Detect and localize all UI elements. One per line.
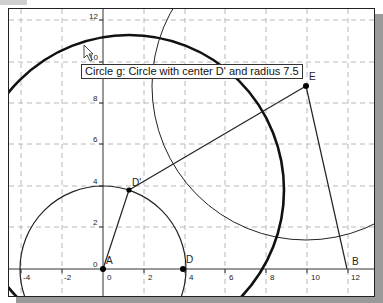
x-tick-label: 2 [148, 273, 153, 282]
point-e[interactable] [303, 83, 309, 89]
geometry-canvas[interactable]: -4 -2 0 2 4 6 8 10 12 0 2 4 6 8 10 12 [9, 9, 375, 297]
y-tick-label: 12 [89, 12, 98, 21]
segment-dprime-e[interactable] [129, 86, 306, 190]
object-tooltip: Circle g: Circle with center D' and radi… [81, 64, 303, 79]
tick-labels: -4 -2 0 2 4 6 8 10 12 0 2 4 6 8 10 12 [23, 12, 360, 282]
x-tick-label: 0 [107, 273, 112, 282]
x-tick-label: 10 [311, 273, 320, 282]
frame-shadow-bottom [16, 297, 383, 303]
x-tick-label: 4 [189, 273, 194, 282]
point-a[interactable] [100, 266, 106, 272]
window-tab [0, 0, 27, 5]
mouse-cursor-icon [84, 45, 93, 61]
frame-shadow-right [375, 14, 383, 303]
y-tick-label: 8 [93, 94, 98, 103]
y-tick-label: 0 [93, 260, 98, 269]
circle-thin[interactable] [152, 9, 375, 240]
y-tick-label: 4 [93, 177, 98, 186]
point-d[interactable] [180, 266, 186, 272]
x-tick-label: 6 [229, 273, 234, 282]
y-tick-label: 6 [93, 135, 98, 144]
point-label-d-prime: D' [132, 177, 141, 188]
point-d-prime[interactable] [126, 187, 131, 192]
x-tick-label: -4 [23, 273, 31, 282]
point-label-a: A [106, 255, 113, 266]
segment-e-b[interactable] [306, 86, 347, 269]
x-tick-label: 8 [270, 273, 275, 282]
x-tick-label: 12 [351, 273, 360, 282]
x-tick-label: -2 [64, 273, 72, 282]
y-tick-label: 2 [93, 218, 98, 227]
point-label-d: D [186, 254, 193, 265]
point-label-e: E [309, 71, 316, 82]
point-label-b: B [352, 256, 359, 267]
graphics-view[interactable]: -4 -2 0 2 4 6 8 10 12 0 2 4 6 8 10 12 [8, 8, 375, 297]
